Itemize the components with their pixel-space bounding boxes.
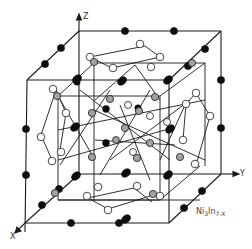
atom-hatched xyxy=(88,109,95,116)
atom-filled xyxy=(57,44,64,51)
atom-filled xyxy=(22,125,29,132)
formula-subscript-in: 7-X xyxy=(215,210,225,217)
atom-filled-pair xyxy=(120,167,132,179)
atom-hatched xyxy=(176,153,183,160)
atom-hatched xyxy=(149,190,156,197)
atom-open xyxy=(179,136,187,144)
atom-open xyxy=(156,192,164,200)
atom-filled-pair xyxy=(116,75,128,87)
atom-open xyxy=(49,85,57,93)
atom-open xyxy=(147,113,154,120)
atom-hatched xyxy=(151,93,158,100)
z-axis-label: Z xyxy=(83,13,88,21)
atom-filled xyxy=(217,124,224,131)
atom-open xyxy=(133,182,141,190)
atom-filled xyxy=(41,60,48,67)
atom-hatched xyxy=(53,92,60,99)
atom-filled xyxy=(180,204,187,211)
atom-hatched xyxy=(106,95,113,102)
atom-open xyxy=(57,148,65,156)
atom-hatched xyxy=(90,58,97,65)
atom-open xyxy=(94,183,102,191)
atom-open xyxy=(62,109,70,117)
atom-filled xyxy=(217,76,224,83)
y-axis-label: Y xyxy=(240,170,245,178)
atom-open xyxy=(37,133,45,141)
atom-open xyxy=(48,157,56,165)
atom-hatched xyxy=(133,154,140,161)
atom-filled xyxy=(198,187,205,194)
atom-hatched xyxy=(146,139,153,146)
atom-filled xyxy=(38,201,45,208)
atom-filled xyxy=(22,171,29,178)
atom-open xyxy=(164,119,171,126)
atom-filled xyxy=(74,79,80,85)
atom-hatched xyxy=(121,124,128,131)
atom-filled xyxy=(170,27,177,34)
atom-hatched xyxy=(51,189,58,196)
atom-filled xyxy=(201,45,208,52)
atom-hatched xyxy=(188,59,195,66)
atom-open xyxy=(156,53,164,61)
atom-filled xyxy=(103,106,110,113)
atom-open xyxy=(104,206,112,214)
atom-open xyxy=(83,192,91,200)
atom-hatched xyxy=(113,137,120,144)
atom-filled xyxy=(67,219,74,226)
atom-open xyxy=(147,63,155,71)
atom-filled xyxy=(121,27,128,34)
atom-hatched xyxy=(88,153,95,160)
atom-open xyxy=(192,89,200,97)
atom-open xyxy=(182,100,190,108)
atom-hatched xyxy=(135,107,142,114)
compound-formula: Ni3In7-X xyxy=(196,207,225,217)
atom-filled xyxy=(103,140,110,147)
atom-open xyxy=(191,160,199,168)
atom-open xyxy=(125,102,132,109)
atom-filled-pair xyxy=(162,169,174,181)
atom-open xyxy=(206,112,214,120)
x-axis-label: X xyxy=(10,233,15,241)
atom-open xyxy=(136,40,144,48)
atom-filled-pair xyxy=(162,74,174,86)
atom-open xyxy=(109,64,117,72)
formula-element-ni: Ni xyxy=(196,207,204,216)
